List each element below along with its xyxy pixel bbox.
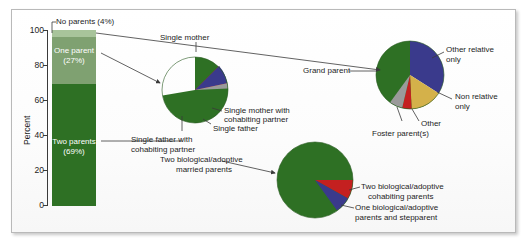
label-one-bio-step-1: One biological/adoptive — [355, 203, 438, 213]
y-tick-0: 0 — [24, 201, 44, 210]
y-tick-60: 60 — [24, 96, 44, 105]
bar-segment-no-parents — [52, 30, 96, 37]
y-tick-mark-60 — [43, 100, 47, 101]
y-tick-mark-20 — [43, 170, 47, 171]
y-tick-mark-100 — [43, 30, 47, 31]
label-single-father: Single father — [213, 124, 258, 134]
label-non-relative-2: only — [455, 102, 470, 112]
label-other: Other — [421, 119, 441, 129]
label-grand-parent: Grand parent — [303, 66, 350, 76]
y-tick-100: 100 — [24, 26, 44, 35]
label-one-bio-step-2: parents and stepparent — [355, 213, 437, 223]
y-tick-20: 20 — [24, 166, 44, 175]
label-non-relative-1: Non relative — [455, 92, 498, 102]
label-single-mother: Single mother — [160, 33, 209, 43]
label-other-relative-2: only — [446, 55, 461, 65]
bar-value-two-parents: (69%) — [46, 147, 102, 157]
label-foster-parents: Foster parent(s) — [372, 129, 429, 139]
y-tick-mark-0 — [43, 205, 47, 206]
label-two-bio-married-1: Two biological/adoptive — [160, 155, 243, 165]
label-two-bio-married-2: married parents — [176, 165, 232, 175]
bar-value-one-parent: (27%) — [46, 56, 102, 66]
y-tick-40: 40 — [24, 131, 44, 140]
cut-off-title-sliver — [25, 0, 445, 5]
label-two-bio-cohabiting-2: cohabiting parents — [368, 192, 433, 202]
label-single-father-cohabiting-1: Single father with — [131, 135, 192, 145]
y-tick-mark-40 — [43, 135, 47, 136]
y-tick-80: 80 — [24, 61, 44, 70]
label-single-father-cohabiting-2: cohabiting partner — [131, 145, 195, 155]
bar-label-one-parent: One parent — [46, 46, 102, 56]
label-two-bio-cohabiting-1: Two biological/adoptive — [361, 182, 444, 192]
label-no-parents: No parents (4%) — [56, 17, 114, 27]
bar-label-two-parents: Two parents — [46, 137, 102, 147]
label-other-relative-1: Other relative — [446, 45, 494, 55]
figure-root: Percent 100 80 60 40 20 0 Two parents (6… — [0, 0, 530, 245]
